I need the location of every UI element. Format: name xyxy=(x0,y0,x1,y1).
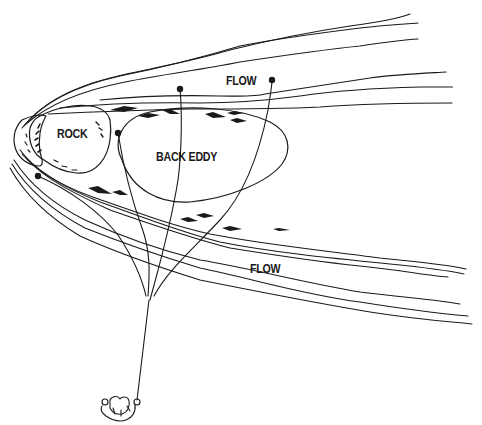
current-lines-bottom xyxy=(10,150,472,324)
rescuer-figure xyxy=(101,396,140,420)
diagram-canvas xyxy=(0,0,482,425)
label-rock: ROCK xyxy=(57,126,87,141)
label-back-eddy: BACK EDDY xyxy=(156,149,217,164)
current-lines-top xyxy=(22,14,452,128)
label-flow-bottom: FLOW xyxy=(250,261,280,276)
label-flow-top: FLOW xyxy=(226,73,256,88)
back-eddy-diagram: ROCK BACK EDDY FLOW FLOW xyxy=(0,0,482,425)
eddy-arrows xyxy=(88,106,290,231)
